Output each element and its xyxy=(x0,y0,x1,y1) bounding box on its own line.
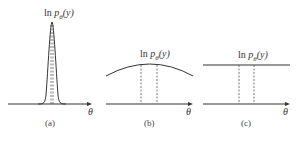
caption-b: (b) xyxy=(144,118,155,128)
curve-label-b: ln pθ(y) xyxy=(140,48,170,62)
caption-a: (a) xyxy=(45,118,55,128)
caption-c: (c) xyxy=(241,118,251,128)
arc-curve xyxy=(106,64,193,76)
panel-a xyxy=(8,22,92,106)
curve-label-c: ln pθ(y) xyxy=(238,49,268,63)
axis-label-b: θ xyxy=(186,106,191,117)
peak-curve xyxy=(38,22,66,104)
panel-c xyxy=(203,65,290,106)
panel-b xyxy=(106,64,193,106)
axis-label-a: θ xyxy=(88,106,93,117)
curve-label-a: ln pθ(y) xyxy=(44,7,74,21)
axis-label-c: θ xyxy=(283,106,288,117)
